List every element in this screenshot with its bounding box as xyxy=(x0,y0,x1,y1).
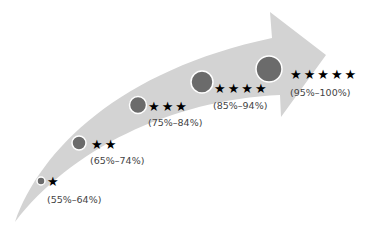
level-1-label: (55%–64%) xyxy=(47,195,101,205)
level-2-label: (65%–74%) xyxy=(90,156,144,166)
level-2-circle xyxy=(72,136,86,150)
growth-arrow-diagram xyxy=(0,0,378,227)
level-3-stars: ★★★ xyxy=(148,100,189,113)
level-4-circle xyxy=(191,71,213,93)
level-4-stars: ★★★★ xyxy=(214,82,269,95)
level-5-label: (95%–100%) xyxy=(290,88,350,98)
level-3-circle xyxy=(130,97,147,114)
level-4-label: (85%–94%) xyxy=(213,101,267,111)
level-1-circle xyxy=(37,177,45,185)
level-5-stars: ★★★★★ xyxy=(290,68,358,81)
level-5-circle xyxy=(256,56,282,82)
level-3-label: (75%–84%) xyxy=(148,118,202,128)
level-2-stars: ★★ xyxy=(91,138,118,151)
level-1-stars: ★ xyxy=(47,175,61,188)
